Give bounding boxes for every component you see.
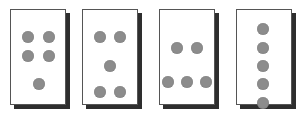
dot xyxy=(94,31,106,43)
dot xyxy=(114,31,126,43)
dot xyxy=(43,50,55,62)
dot xyxy=(181,76,193,88)
dot xyxy=(114,86,126,98)
card-2 xyxy=(82,9,138,105)
dot xyxy=(171,42,183,54)
dot xyxy=(257,78,269,90)
dot xyxy=(43,31,55,43)
dot xyxy=(94,86,106,98)
dot xyxy=(33,78,45,90)
dot xyxy=(22,50,34,62)
dot xyxy=(191,42,203,54)
card-1 xyxy=(10,9,66,105)
dot xyxy=(257,42,269,54)
dot xyxy=(257,97,269,109)
dot xyxy=(257,60,269,72)
dot xyxy=(162,76,174,88)
dot xyxy=(200,76,212,88)
dot xyxy=(104,60,116,72)
card-4 xyxy=(236,9,292,105)
dot xyxy=(22,31,34,43)
card-3 xyxy=(159,9,215,105)
dot xyxy=(257,23,269,35)
